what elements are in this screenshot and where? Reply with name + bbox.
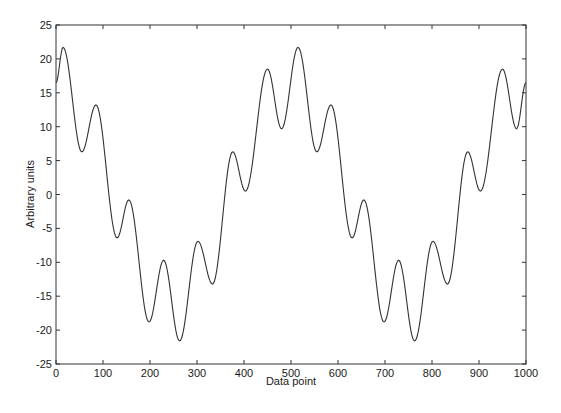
y-tick-label: 20	[40, 53, 52, 65]
x-axis-label: Data point	[266, 375, 316, 387]
x-tick-label: 1000	[514, 367, 538, 379]
x-tick-label: 800	[423, 367, 441, 379]
y-tick-label: 10	[40, 121, 52, 133]
y-tick-label: -15	[36, 290, 52, 302]
y-tick-label: 25	[40, 19, 52, 31]
x-tick-label: 100	[94, 367, 112, 379]
y-tick-label: -5	[42, 222, 52, 234]
y-axis: -25-20-15-10-50510152025	[36, 19, 526, 370]
y-tick-label: -20	[36, 324, 52, 336]
x-axis: 01002003004005006007008009001000	[53, 25, 538, 379]
y-tick-label: 5	[46, 155, 52, 167]
x-tick-label: 0	[53, 367, 59, 379]
y-tick-label: 15	[40, 87, 52, 99]
x-tick-label: 600	[329, 367, 347, 379]
y-tick-label: -25	[36, 358, 52, 370]
y-tick-label: 0	[46, 189, 52, 201]
x-tick-label: 900	[470, 367, 488, 379]
y-axis-label: Arbitrary units	[24, 160, 36, 228]
x-tick-label: 700	[376, 367, 394, 379]
x-tick-label: 300	[188, 367, 206, 379]
x-tick-label: 200	[141, 367, 159, 379]
x-tick-label: 400	[235, 367, 253, 379]
signal-line	[56, 47, 526, 341]
y-tick-label: -10	[36, 256, 52, 268]
line-chart: 01002003004005006007008009001000 -25-20-…	[0, 0, 561, 413]
